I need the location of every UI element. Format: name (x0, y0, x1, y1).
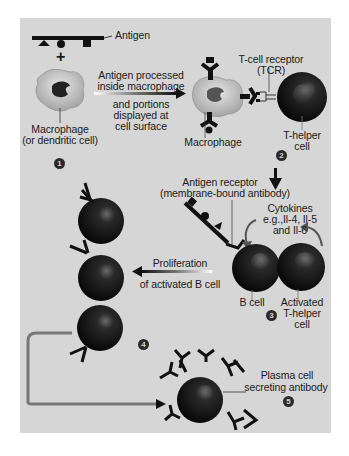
step-2-badge: 2 (276, 150, 287, 161)
activated-label-line3: cell (280, 319, 324, 330)
process-label-line2: inside macrophage (94, 81, 188, 92)
macrophage2-label: Macrophage (178, 137, 248, 148)
tcr-label-line2: (TCR) (236, 65, 306, 76)
plus-sign: + (56, 49, 65, 65)
activated-t-helper-icon (277, 243, 325, 300)
macrophage-icon (36, 69, 84, 123)
step-1-badge: 1 (54, 158, 65, 169)
proliferating-b-cell-1 (78, 183, 124, 244)
antigen-icon (32, 36, 112, 48)
b-cell-icon (232, 244, 280, 300)
t-helper-label-line2: cell (282, 141, 322, 152)
display-label-line3: cell surface (94, 121, 188, 132)
cytokines-label-line3: and Il-6 (260, 225, 320, 236)
plasma-label-line2: secreting antibody (244, 382, 328, 393)
b-cell-label: B cell (232, 297, 272, 308)
step-3-badge: 3 (266, 310, 277, 321)
t-helper-cell-icon (277, 72, 327, 130)
macrophage-label-line2: (or dendritic cell) (20, 135, 100, 146)
antigen-receptor-icon (185, 197, 244, 248)
proliferation-label-line1: Proliferation (140, 258, 220, 269)
plasma-label-line1: Plasma cell (252, 370, 322, 381)
antigen-label: Antigen (115, 30, 150, 41)
antigen-receptor-label-line2: (membrane-bound antibody) (160, 188, 280, 199)
proliferating-b-cell-3 (70, 305, 123, 362)
step-5-badge: 5 (283, 396, 294, 407)
proliferating-b-cell-2 (70, 240, 124, 301)
plasma-cell-icon (177, 377, 246, 423)
proliferation-label-line2: of activated B cell (130, 279, 230, 290)
step-4-badge: 4 (138, 339, 149, 350)
